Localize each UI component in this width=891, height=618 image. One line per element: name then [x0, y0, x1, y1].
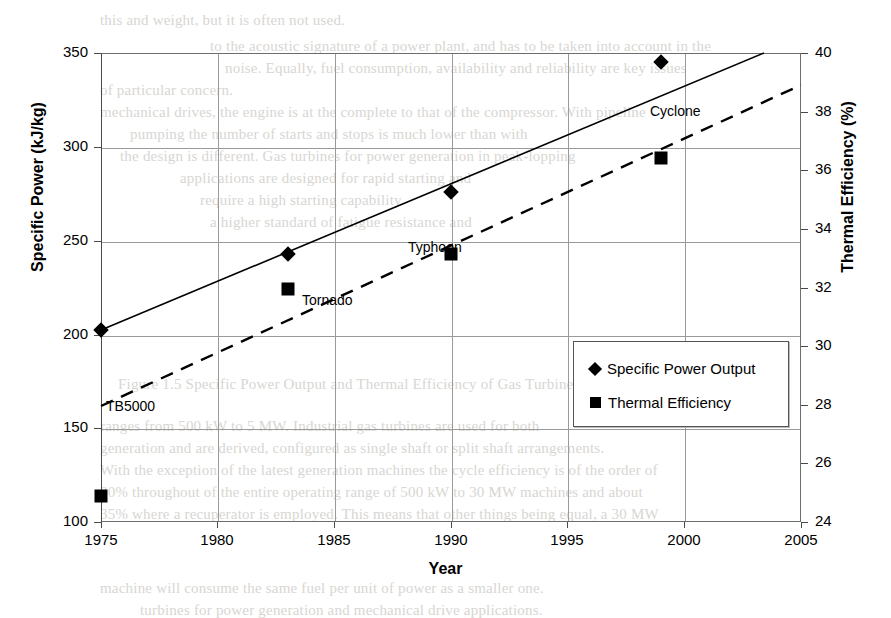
data-point-thermal-efficiency-1975: [95, 490, 108, 503]
y-left-tick: [94, 522, 101, 523]
trendlines: [0, 0, 891, 618]
y-right-label-28: 28: [815, 395, 845, 412]
x-tick: [684, 522, 685, 528]
y-left-label-150: 150: [40, 418, 88, 435]
y-right-tick: [801, 288, 808, 289]
y-axis-left-title: Specific Power (kJ/kg): [29, 57, 47, 317]
chart-figure: 1975 1980 1985 1990 1995 2000 2005 100 1…: [0, 0, 891, 618]
y-left-tick: [94, 428, 101, 429]
legend-item-thermal-efficiency: Thermal Efficiency: [590, 394, 731, 411]
x-tick: [217, 522, 218, 528]
x-tick-label-2000: 2000: [654, 531, 714, 548]
annotation-typhoon: Typhoon: [408, 239, 462, 255]
y-left-label-200: 200: [40, 325, 88, 342]
y-right-label-26: 26: [815, 453, 845, 470]
y-right-tick: [801, 346, 808, 347]
y-right-label-24: 24: [815, 512, 845, 529]
y-left-tick: [94, 147, 101, 148]
y-left-label-250: 250: [40, 231, 88, 248]
x-tick-label-1985: 1985: [304, 531, 364, 548]
x-tick-label-1990: 1990: [421, 531, 481, 548]
diamond-marker-icon: [588, 361, 602, 375]
data-point-thermal-efficiency-1983: [282, 283, 295, 296]
data-point-thermal-efficiency-1999: [655, 152, 668, 165]
y-right-tick: [801, 112, 808, 113]
x-tick-label-1980: 1980: [187, 531, 247, 548]
x-tick-label-1975: 1975: [71, 531, 131, 548]
y-left-label-100: 100: [40, 512, 88, 529]
y-right-tick: [801, 463, 808, 464]
y-right-tick: [801, 170, 808, 171]
x-tick-label-2005: 2005: [771, 531, 831, 548]
x-tick: [101, 522, 102, 528]
y-right-tick: [801, 522, 808, 523]
annotation-tb5000: TB5000: [106, 398, 155, 414]
square-marker-icon: [590, 397, 601, 408]
legend-label-specific-power: Specific Power Output: [607, 360, 755, 377]
x-axis-title: Year: [0, 560, 891, 578]
y-left-label-300: 300: [40, 137, 88, 154]
y-left-tick: [94, 241, 101, 242]
y-axis-right-title: Thermal Efficiency (%): [839, 57, 857, 317]
chart-legend: Specific Power Output Thermal Efficiency: [573, 341, 789, 427]
x-tick: [334, 522, 335, 528]
trendline-specific-power: [101, 53, 764, 330]
legend-item-specific-power: Specific Power Output: [590, 360, 755, 377]
x-tick: [451, 522, 452, 528]
y-right-tick: [801, 405, 808, 406]
y-left-tick: [94, 53, 101, 54]
y-right-label-30: 30: [815, 336, 845, 353]
x-tick: [567, 522, 568, 528]
y-left-label-350: 350: [40, 43, 88, 60]
x-tick-label-1995: 1995: [537, 531, 597, 548]
legend-label-thermal-efficiency: Thermal Efficiency: [608, 394, 731, 411]
y-right-tick: [801, 229, 808, 230]
y-right-tick: [801, 53, 808, 54]
annotation-tornado: Tornado: [302, 292, 353, 308]
annotation-cyclone: Cyclone: [650, 103, 701, 119]
